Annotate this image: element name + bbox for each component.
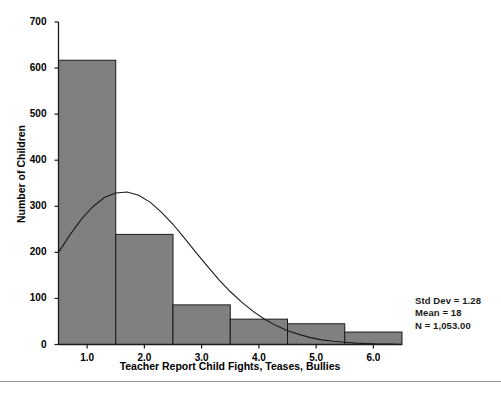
y-tick-label: 100 <box>7 292 47 303</box>
figure-container: 0100200300400500600700 1.02.03.04.05.06.… <box>0 0 501 396</box>
y-tick-label: 700 <box>7 16 47 27</box>
bars-group <box>59 60 403 344</box>
histogram-bar <box>173 305 230 345</box>
histogram-plot <box>0 0 501 396</box>
n-label: N = 1,053.00 <box>415 320 481 332</box>
y-tick-label: 200 <box>7 246 47 257</box>
histogram-bar <box>59 60 116 344</box>
x-axis-title: Teacher Report Child Fights, Teases, Bul… <box>58 360 402 372</box>
bottom-divider <box>0 381 501 382</box>
y-tick-label: 0 <box>7 339 47 350</box>
histogram-bar <box>116 234 173 344</box>
histogram-bar <box>230 319 287 344</box>
std-dev-label: Std Dev = 1.28 <box>415 295 481 307</box>
statistics-annotation: Std Dev = 1.28 Mean = 18 N = 1,053.00 <box>415 295 481 332</box>
y-axis-title: Number of Children <box>15 109 27 239</box>
mean-label: Mean = 18 <box>415 307 481 319</box>
y-tick-label: 600 <box>7 62 47 73</box>
